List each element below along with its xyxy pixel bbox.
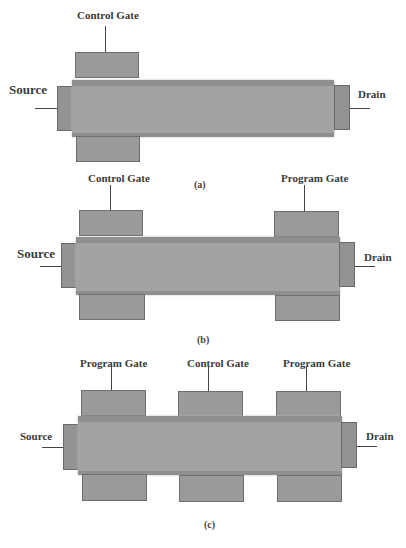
source-label: Source xyxy=(20,430,52,442)
bottom-program-gate xyxy=(275,295,340,321)
drain-contact xyxy=(339,242,355,287)
channel xyxy=(78,416,342,475)
caption-b: (b) xyxy=(197,334,209,345)
bottom-control-gate xyxy=(79,294,145,320)
program-gate-lead-left xyxy=(111,367,112,391)
bottom-control-gate xyxy=(179,475,244,502)
control-gate-label: Control Gate xyxy=(88,172,150,184)
program-gate-label-right: Program Gate xyxy=(283,357,350,369)
drain-label: Drain xyxy=(364,251,392,263)
program-gate-lead xyxy=(304,185,305,212)
bottom-program-gate-right xyxy=(277,475,342,502)
program-gate-label: Program Gate xyxy=(281,172,348,184)
drain-contact xyxy=(341,422,357,468)
source-lead xyxy=(35,108,58,109)
drain-lead xyxy=(355,266,375,267)
caption-a: (a) xyxy=(194,179,206,190)
top-program-gate-left xyxy=(81,390,146,416)
drain-lead xyxy=(350,108,370,109)
top-control-gate xyxy=(79,210,143,236)
program-gate-label-left: Program Gate xyxy=(80,357,147,369)
channel xyxy=(76,237,340,295)
source-label: Source xyxy=(9,82,47,98)
control-gate-label: Control Gate xyxy=(77,9,139,21)
drain-contact xyxy=(334,85,350,130)
control-gate-lead xyxy=(105,26,106,53)
program-gate-lead-right xyxy=(306,367,307,392)
source-label: Source xyxy=(17,246,55,262)
bottom-program-gate-left xyxy=(82,474,147,501)
control-gate-lead xyxy=(110,185,111,211)
source-lead xyxy=(42,447,64,448)
drain-label: Drain xyxy=(358,88,386,100)
top-control-gate xyxy=(178,391,243,417)
drain-label: Drain xyxy=(366,430,394,442)
drain-lead xyxy=(357,446,377,447)
top-program-gate xyxy=(274,211,339,237)
source-lead xyxy=(40,266,62,267)
caption-c: (c) xyxy=(204,519,215,530)
bottom-control-gate xyxy=(76,136,140,162)
channel xyxy=(72,80,334,137)
control-gate-label: Control Gate xyxy=(187,357,249,369)
top-control-gate xyxy=(75,52,139,78)
control-gate-lead xyxy=(208,367,209,392)
top-program-gate-right xyxy=(276,391,341,417)
